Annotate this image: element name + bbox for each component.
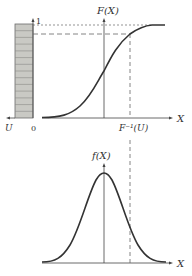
- top-y-axis-label: F(X): [96, 5, 119, 16]
- top-y-axis-arrow-icon: [103, 18, 106, 22]
- u-axis-left-arrow-icon: [6, 117, 10, 120]
- bottom-y-axis-label: f(X): [91, 150, 111, 161]
- top-x-axis-arrow-icon: [169, 117, 173, 120]
- uniform-axis-label: U: [5, 123, 13, 133]
- origin-label: 0: [31, 124, 36, 133]
- inverse-label: F⁻¹(U): [118, 123, 149, 133]
- uniform-bar: [15, 24, 33, 118]
- top-tick-label: 1: [36, 17, 41, 26]
- bottom-y-axis-arrow-icon: [103, 163, 106, 167]
- u-axis-arrow-icon: [32, 18, 35, 22]
- top-x-axis-label: X: [176, 113, 185, 124]
- cdf-curve: [42, 25, 165, 118]
- bottom-x-axis-label: X: [176, 258, 185, 269]
- bottom-x-axis-arrow-icon: [169, 262, 173, 265]
- inverse-transform-diagram: F(X) X U 0 1 F⁻¹(U) f(X) X: [0, 0, 192, 276]
